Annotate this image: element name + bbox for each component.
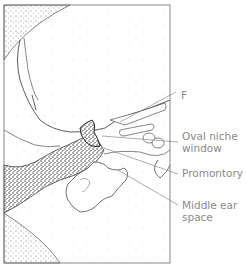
label-middle-ear-line1: Middle ear (182, 199, 237, 211)
label-promontory: Promontory (182, 167, 243, 179)
label-middle-ear-line2: space (182, 211, 237, 223)
label-oval-niche-line1: Oval niche (182, 130, 238, 142)
label-promontory-text: Promontory (182, 167, 243, 179)
label-f-text: F (181, 89, 187, 101)
label-middle-ear-space: Middle ear space (182, 199, 237, 223)
label-oval-niche-line2: window (182, 142, 238, 154)
cochlea-turn (152, 138, 164, 148)
label-oval-niche-window: Oval niche window (182, 130, 238, 154)
label-f: F (181, 89, 187, 101)
